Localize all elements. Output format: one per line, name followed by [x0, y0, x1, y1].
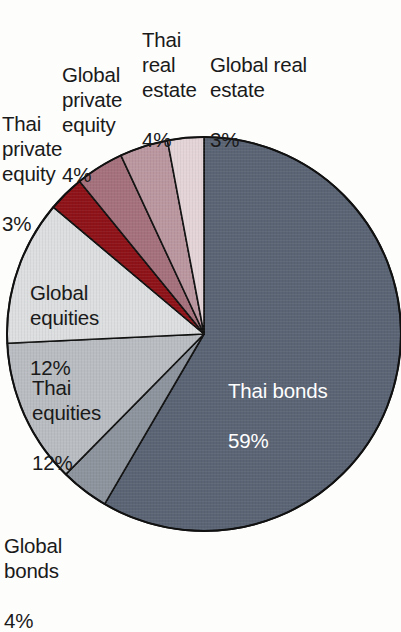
slice-label-thai-bonds: Thai bonds 59% [228, 353, 368, 478]
slice-label-global-equities: Global equities 12% [30, 255, 140, 405]
slice-label-percent: 59% [228, 428, 368, 453]
slice-label-percent: 3% [2, 211, 88, 236]
slice-label-percent: 3% [210, 127, 338, 152]
slice-label-name: Global real estate [210, 52, 338, 102]
slice-label-name: Global bonds [4, 533, 108, 583]
slice-label-thai-real-estate: Thai real estate 4% [142, 2, 208, 177]
slice-label-percent: 12% [30, 355, 140, 380]
slice-label-percent: 4% [142, 127, 208, 152]
slice-label-percent: 4% [62, 162, 146, 187]
slice-label-name: Global equities [30, 280, 140, 330]
slice-label-name: Global private equity [62, 62, 146, 137]
slice-label-percent: 4% [4, 608, 108, 632]
slice-label-global-real-estate: Global real estate 3% [210, 27, 338, 177]
slice-label-global-bonds: Global bonds 4% [4, 508, 108, 632]
slice-label-percent: 12% [32, 450, 142, 475]
slice-label-global-private-equity: Global private equity 4% [62, 37, 146, 212]
slice-label-name: Thai real estate [142, 27, 208, 102]
slice-label-name: Thai bonds [228, 378, 368, 403]
